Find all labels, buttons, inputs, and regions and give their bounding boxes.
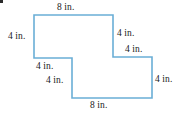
dimension-label-inner-horizontal: 4 in. — [36, 62, 53, 72]
dimension-label-inner-vertical: 4 in. — [46, 76, 63, 86]
dimension-label-left-edge: 4 in. — [8, 32, 25, 42]
dimension-label-top-edge: 8 in. — [57, 3, 74, 13]
dimension-label-lower-right-edge: 4 in. — [155, 75, 172, 85]
step-polygon-outline — [0, 0, 176, 116]
dimension-label-bottom-edge: 8 in. — [90, 101, 107, 111]
geometry-figure-canvas: 8 in. 4 in. 4 in. 4 in. 4 in. 4 in. 4 in… — [0, 0, 176, 116]
dimension-label-upper-right-edge: 4 in. — [117, 29, 134, 39]
dimension-label-middle-right-edge: 4 in. — [125, 45, 142, 55]
step-polygon-path — [34, 15, 152, 98]
